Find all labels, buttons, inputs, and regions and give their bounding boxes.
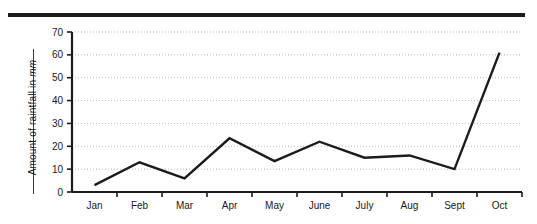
y-tick-label: 20 [52,141,64,152]
y-tick-label: 50 [52,72,64,83]
rainfall-data-line [95,53,500,186]
x-tick-label: Apr [222,200,238,211]
x-tick-group: JanFebMarAprMayJuneJulyAugSeptOct [86,192,522,211]
x-tick-label: May [265,200,284,211]
y-tick-label: 60 [52,49,64,60]
y-tick-label: 30 [52,118,64,129]
y-tick-label: 70 [52,27,64,38]
x-tick-label: Sept [444,200,465,211]
x-tick-label: Oct [492,200,508,211]
chart-plot: 010203040506070 JanFebMarAprMayJuneJulyA… [0,0,537,224]
x-tick-label: Mar [176,200,194,211]
x-tick-label: July [356,200,374,211]
x-tick-label: June [309,200,331,211]
y-tick-label: 40 [52,95,64,106]
gridline-group [72,32,522,169]
x-tick-label: Aug [401,200,419,211]
x-tick-label: Feb [131,200,149,211]
y-tick-label: 0 [57,187,63,198]
y-tick-group: 010203040506070 [52,27,72,198]
rainfall-line-chart-figure: Amount of raintfall in mm 01020304050607… [0,0,537,224]
x-tick-label: Jan [86,200,102,211]
y-tick-label: 10 [52,164,64,175]
